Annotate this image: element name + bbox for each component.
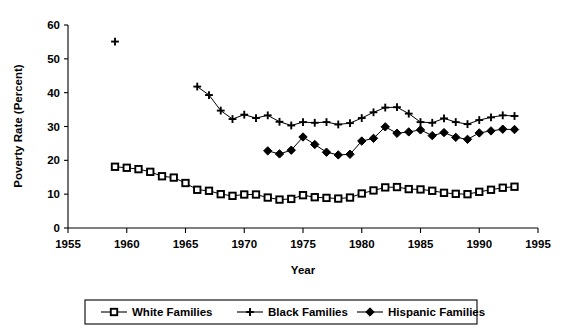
data-point — [464, 191, 470, 197]
data-point — [335, 195, 341, 201]
data-point — [334, 151, 342, 159]
poverty-rate-chart: 0102030405060Poverty Rate (Percent)19551… — [0, 0, 563, 335]
data-point — [511, 184, 517, 190]
data-point — [370, 187, 376, 193]
data-point — [276, 196, 282, 202]
data-point — [510, 125, 518, 133]
data-point — [253, 191, 259, 197]
data-point — [159, 173, 165, 179]
data-point — [488, 187, 494, 193]
data-point — [275, 150, 283, 158]
x-tick-label: 1955 — [55, 238, 81, 250]
data-point — [394, 184, 400, 190]
x-tick-label: 1970 — [231, 238, 257, 250]
x-tick-label: 1985 — [408, 238, 434, 250]
data-point — [300, 192, 306, 198]
chart-canvas: 0102030405060Poverty Rate (Percent)19551… — [0, 0, 563, 335]
data-point — [453, 191, 459, 197]
data-point — [135, 166, 141, 172]
data-point — [194, 187, 200, 193]
series-white-families — [112, 164, 518, 203]
data-point — [417, 186, 423, 192]
y-tick-label: 10 — [47, 188, 60, 200]
legend-marker-square — [111, 309, 117, 315]
y-tick-label: 50 — [47, 53, 60, 65]
data-point — [429, 188, 435, 194]
data-point — [393, 129, 401, 137]
x-tick-label: 1980 — [349, 238, 375, 250]
data-point — [241, 191, 247, 197]
data-point — [264, 147, 272, 155]
data-point — [229, 193, 235, 199]
legend-label: Hispanic Families — [388, 306, 485, 318]
y-axis-title: Poverty Rate (Percent) — [12, 64, 24, 188]
chart-legend: White FamiliesBlack FamiliesHispanic Fam… — [85, 300, 485, 324]
data-point — [440, 128, 448, 136]
data-point — [347, 194, 353, 200]
legend-item-hispanic-families[interactable]: Hispanic Families — [357, 306, 485, 318]
x-tick-label: 1975 — [290, 238, 316, 250]
y-tick-label: 0 — [54, 222, 60, 234]
data-point — [323, 195, 329, 201]
data-point — [359, 190, 365, 196]
legend-label: White Families — [132, 306, 213, 318]
series-black-families — [111, 38, 518, 130]
data-point — [206, 188, 212, 194]
data-point — [463, 135, 471, 143]
data-point — [218, 191, 224, 197]
x-tick-label: 1990 — [466, 238, 492, 250]
legend-item-white-families[interactable]: White Families — [101, 306, 213, 318]
x-axis-title: Year — [291, 264, 316, 276]
y-tick-label: 30 — [47, 121, 60, 133]
data-point — [476, 189, 482, 195]
data-point — [416, 126, 424, 134]
y-tick-label: 40 — [47, 87, 60, 99]
data-point — [500, 185, 506, 191]
data-point — [499, 125, 507, 133]
y-tick-label: 20 — [47, 154, 60, 166]
legend-label: Black Families — [268, 306, 348, 318]
data-point — [428, 131, 436, 139]
legend-marker-diamond — [366, 308, 374, 316]
data-point — [182, 180, 188, 186]
data-point — [171, 174, 177, 180]
data-point — [406, 186, 412, 192]
data-point — [147, 169, 153, 175]
data-point — [405, 128, 413, 136]
x-tick-label: 1965 — [173, 238, 199, 250]
data-point — [124, 165, 130, 171]
y-tick-label: 60 — [47, 19, 60, 31]
data-point — [487, 127, 495, 135]
data-point — [475, 129, 483, 137]
data-point — [311, 140, 319, 148]
series-polyline — [197, 87, 514, 126]
legend-item-black-families[interactable]: Black Families — [237, 306, 348, 318]
data-point — [382, 184, 388, 190]
data-point — [112, 164, 118, 170]
series-hispanic-families — [264, 123, 519, 159]
data-point — [322, 148, 330, 156]
data-point — [288, 196, 294, 202]
data-point — [441, 190, 447, 196]
x-tick-label: 1960 — [114, 238, 140, 250]
data-point — [265, 194, 271, 200]
data-point — [312, 194, 318, 200]
x-tick-label: 1995 — [525, 238, 551, 250]
data-point — [452, 133, 460, 141]
